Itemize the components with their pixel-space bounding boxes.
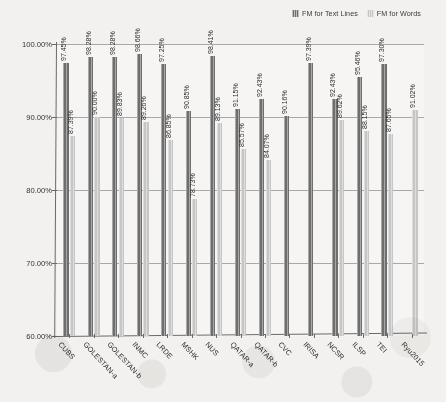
y-tick-label: 90.00%	[26, 113, 52, 122]
legend-swatch-text-lines	[292, 10, 299, 17]
bar-value-label: 90.16%	[281, 90, 288, 114]
bar-value-label: 87.65%	[385, 108, 392, 132]
y-tick-label: 60.00%	[26, 332, 52, 341]
x-category-label: QATAR-b	[252, 340, 280, 369]
bar-group: 98.41%89.13%	[204, 44, 228, 336]
bar-value-label: 91.15%	[232, 83, 239, 107]
x-category-label: QATAR-a	[228, 340, 256, 369]
bar-group: 90.16%	[277, 44, 301, 336]
bar-undefined: 97.39%	[308, 63, 313, 336]
x-tick-mark	[289, 334, 290, 338]
bar-value-label: 90.00%	[91, 91, 98, 115]
bar-value-label: 89.62%	[336, 94, 343, 118]
bar-group: 98.28%89.83%	[106, 44, 130, 336]
x-tick-mark	[265, 334, 266, 338]
legend-item-words: FM for Words	[367, 9, 421, 18]
bar-group: 91.15%85.57%	[228, 44, 252, 336]
y-tick-label: 100.00%	[22, 40, 52, 49]
bar-value-label: 86.85%	[165, 114, 172, 138]
bar-undefined: 89.83%	[119, 118, 124, 336]
bar-undefined: 89.62%	[339, 120, 344, 336]
bar-group: 98.66%89.26%	[130, 44, 154, 336]
bar-undefined: 97.30%	[381, 64, 386, 336]
bar-value-label: 98.66%	[134, 28, 141, 52]
bar-value-label: 97.39%	[305, 37, 312, 61]
bar-group: 97.45%87.39%	[57, 44, 81, 336]
bar-group: 92.43%84.07%	[253, 44, 277, 336]
x-tick-mark	[216, 334, 217, 338]
x-category-label: NCSR	[326, 340, 347, 362]
x-category-label: ILSP	[350, 340, 368, 358]
x-category-label: INMC	[130, 340, 150, 360]
bar-group: 91.02%	[400, 44, 424, 336]
bar-undefined: 89.26%	[143, 122, 148, 336]
bar-value-label: 98.28%	[85, 31, 92, 55]
bar-value-label: 89.13%	[214, 98, 221, 122]
bar-group: 95.46%88.15%	[351, 44, 375, 336]
bar-group: 90.85%78.73%	[179, 44, 203, 336]
x-category-label: MSHK	[179, 340, 200, 362]
bar-value-label: 91.02%	[409, 84, 416, 108]
legend-item-text-lines: FM for Text Lines	[292, 9, 358, 18]
y-tick-label: 70.00%	[26, 259, 52, 268]
bar-value-label: 78.73%	[189, 174, 196, 198]
bar-value-label: 92.43%	[256, 74, 263, 98]
x-tick-mark	[412, 334, 413, 338]
bar-group: 97.30%87.65%	[375, 44, 399, 336]
plot-area: 97.45%87.39%98.28%90.00%98.28%89.83%98.6…	[57, 44, 424, 336]
bar-value-label: 85.57%	[238, 124, 245, 148]
bar-undefined: 91.02%	[412, 110, 417, 336]
bar-undefined: 84.07%	[266, 160, 271, 336]
x-category-label: IRISA	[301, 340, 321, 360]
bar-value-label: 87.39%	[67, 110, 74, 134]
x-axis: CUBSGOLESTAN-aGOLESTAN-bINMCLRDEMSHKNUSQ…	[57, 338, 437, 402]
bar-undefined: 97.45%	[63, 63, 68, 336]
bar-undefined: 87.39%	[70, 136, 75, 336]
x-tick-mark	[143, 334, 144, 338]
x-category-label: CUBS	[57, 340, 78, 361]
bar-value-label: 88.15%	[361, 105, 368, 129]
x-tick-mark	[363, 334, 364, 338]
x-category-label: LRDE	[155, 340, 175, 361]
x-tick-mark	[241, 334, 242, 338]
bar-undefined: 88.15%	[364, 131, 369, 336]
bar-value-label: 84.07%	[263, 135, 270, 159]
bar-undefined: 90.16%	[284, 116, 289, 336]
bar-value-label: 95.46%	[354, 51, 361, 75]
x-tick-mark	[118, 334, 119, 338]
bar-group: 97.25%86.85%	[155, 44, 179, 336]
x-tick-mark	[314, 334, 315, 338]
x-category-label: CVC	[277, 340, 294, 358]
bar-value-label: 89.26%	[140, 97, 147, 121]
y-tick-label: 80.00%	[26, 186, 52, 195]
x-tick-mark	[94, 334, 95, 338]
bar-group: 92.43%89.62%	[326, 44, 350, 336]
bar-value-label: 90.85%	[183, 85, 190, 109]
bar-value-label: 89.83%	[116, 93, 123, 117]
bar-undefined: 90.00%	[94, 117, 99, 336]
bar-undefined: 85.57%	[241, 149, 246, 336]
bar-chart: FM for Text Lines FM for Words 60.00%70.…	[0, 0, 446, 402]
bar-undefined: 90.85%	[186, 111, 191, 336]
bar-series-container: 97.45%87.39%98.28%90.00%98.28%89.83%98.6…	[57, 44, 424, 336]
bar-undefined: 87.65%	[388, 134, 393, 336]
bar-undefined: 86.85%	[168, 140, 173, 336]
x-tick-mark	[69, 334, 70, 338]
bar-undefined: 78.73%	[192, 199, 197, 336]
legend-swatch-words	[367, 10, 374, 17]
chart-legend: FM for Text Lines FM for Words	[292, 9, 421, 18]
legend-label-words: FM for Words	[377, 9, 421, 18]
x-category-label: NUS	[203, 340, 220, 358]
y-axis: 60.00%70.00%80.00%90.00%100.00%	[0, 44, 52, 336]
legend-label-text-lines: FM for Text Lines	[302, 9, 358, 18]
x-category-label: Ryu2015	[399, 340, 426, 368]
bar-group: 97.39%	[302, 44, 326, 336]
bar-value-label: 97.25%	[158, 38, 165, 62]
bar-value-label: 98.28%	[109, 31, 116, 55]
bar-value-label: 97.30%	[378, 38, 385, 62]
x-tick-mark	[338, 334, 339, 338]
bar-undefined: 97.25%	[161, 64, 166, 336]
bar-value-label: 98.41%	[207, 30, 214, 54]
bar-group: 98.28%90.00%	[81, 44, 105, 336]
x-category-label: TEI	[375, 340, 390, 355]
